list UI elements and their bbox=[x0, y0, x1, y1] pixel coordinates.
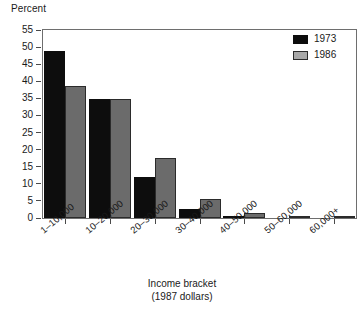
y-tick-label: 40 bbox=[0, 74, 33, 87]
bar-group bbox=[223, 30, 265, 218]
y-tick-label: 10 bbox=[0, 177, 33, 190]
x-axis-title-line1: Income bracket bbox=[148, 278, 216, 289]
y-tick-mark bbox=[36, 132, 41, 133]
legend-item-1973: 1973 bbox=[293, 32, 353, 46]
bar-1973-1–10,000 bbox=[44, 51, 65, 218]
y-tick-mark bbox=[36, 200, 41, 201]
bar-group bbox=[134, 30, 176, 218]
y-tick-label: 35 bbox=[0, 91, 33, 104]
x-tick-mark bbox=[289, 219, 290, 224]
x-axis-title-line2: (1987 dollars) bbox=[0, 290, 364, 303]
y-tick-mark bbox=[36, 149, 41, 150]
x-tick-mark bbox=[110, 219, 111, 224]
legend-item-1986: 1986 bbox=[293, 48, 353, 62]
y-tick-mark bbox=[36, 183, 41, 184]
bar-1986-1–10,000 bbox=[65, 86, 86, 218]
legend-label-1973: 1973 bbox=[314, 33, 336, 45]
chart-legend: 1973 1986 bbox=[293, 32, 353, 64]
y-tick-label: 0 bbox=[0, 211, 33, 224]
y-tick-mark bbox=[36, 115, 41, 116]
y-tick-label: 45 bbox=[0, 57, 33, 70]
bar-group bbox=[89, 30, 131, 218]
x-tick-mark bbox=[65, 219, 66, 224]
y-tick-label: 50 bbox=[0, 40, 33, 53]
y-tick-label: 55 bbox=[0, 23, 33, 36]
x-tick-mark bbox=[334, 219, 335, 224]
y-tick-mark bbox=[36, 47, 41, 48]
y-tick-label: 5 bbox=[0, 194, 33, 207]
x-axis-title: Income bracket (1987 dollars) bbox=[0, 277, 364, 303]
y-tick-mark bbox=[36, 166, 41, 167]
y-axis-title: Percent bbox=[11, 3, 46, 15]
y-tick-mark bbox=[36, 81, 41, 82]
y-tick-label: 25 bbox=[0, 126, 33, 139]
y-tick-label: 15 bbox=[0, 160, 33, 173]
x-tick-mark bbox=[244, 219, 245, 224]
bar-group bbox=[179, 30, 221, 218]
bar-1973-10–20,000 bbox=[89, 99, 110, 218]
x-tick-mark bbox=[200, 219, 201, 224]
x-tick-mark bbox=[155, 219, 156, 224]
bar-chart-figure: Percent 0510152025303540455055 1–10,0001… bbox=[0, 0, 364, 313]
y-tick-label: 30 bbox=[0, 108, 33, 121]
bar-group bbox=[44, 30, 86, 218]
y-tick-mark bbox=[36, 218, 41, 219]
y-tick-mark bbox=[36, 64, 41, 65]
y-tick-label: 20 bbox=[0, 143, 33, 156]
gray-swatch-icon bbox=[293, 51, 308, 60]
black-swatch-icon bbox=[293, 35, 308, 44]
legend-label-1986: 1986 bbox=[314, 49, 336, 61]
y-tick-mark bbox=[36, 30, 41, 31]
y-tick-mark bbox=[36, 98, 41, 99]
